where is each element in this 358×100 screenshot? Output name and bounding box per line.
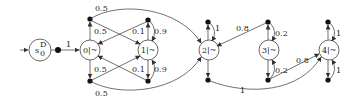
s0-superscript: D (40, 40, 46, 49)
edge-0top-to-2 (90, 9, 201, 43)
edge-4top-to-4 (330, 23, 335, 41)
prob-1bot-0: 0.1 (132, 65, 145, 74)
s0-subscript: 0 (40, 49, 45, 58)
state-4-label: 4|~ (322, 46, 337, 55)
state-0-label: 0|~ (83, 46, 98, 55)
prob-3top-3: 0.2 (275, 29, 288, 38)
prob-1bot-1: 0.9 (154, 65, 167, 74)
prob-1top-0: 0.1 (132, 27, 145, 36)
s0-label: s (35, 46, 39, 55)
action-dot-s0 (55, 47, 61, 53)
prob-3bot-3: 0.2 (275, 66, 288, 75)
mdp-diagram: s 0 D 1 0|~ 1|~ 0.5 0.1 0.9 0.5 0.1 0.9 … (0, 0, 358, 100)
prob-0top-2: 0.5 (95, 4, 108, 13)
prob-4bot-4: 1 (336, 66, 341, 75)
state-3-label: 3|~ (262, 46, 277, 55)
edge-3top-to-3 (270, 23, 275, 41)
prob-0bot-2: 0.5 (95, 89, 108, 98)
action-dot-4-top (325, 19, 330, 24)
action-dot-1-bot (145, 78, 150, 83)
prob-4top-4: 1 (336, 29, 341, 38)
state-1-label: 1|~ (141, 46, 156, 55)
prob-3bot-4: 0.8 (296, 56, 309, 65)
prob-1top-1: 0.9 (154, 27, 167, 36)
action-dot-1-top (145, 17, 150, 22)
action-dot-3-bot (265, 77, 270, 82)
prob-3top-2: 0.8 (236, 24, 249, 33)
prob-2bot-4: 1 (240, 86, 245, 95)
prob-0top-1: 0.5 (94, 27, 107, 36)
edge-2top-to-2 (210, 23, 215, 41)
prob-0bot-1: 0.5 (94, 65, 107, 74)
action-dot-4-bot (325, 77, 330, 82)
edge-3bot-to-3 (270, 60, 275, 79)
action-dot-3-top (265, 19, 270, 24)
prob-2top-2: 1 (215, 24, 220, 33)
prob-s0-0: 1 (66, 40, 71, 49)
action-dot-2-bot (205, 77, 210, 82)
edge-4bot-to-4 (330, 60, 335, 79)
state-2-label: 2|~ (202, 46, 217, 55)
action-dot-2-top (205, 19, 210, 24)
